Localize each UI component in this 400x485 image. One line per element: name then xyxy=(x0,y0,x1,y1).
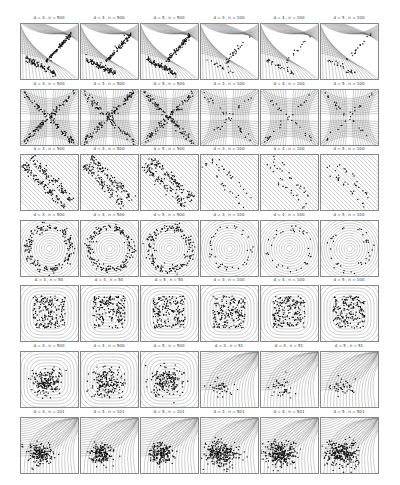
plot-row: d = 3 , n = 500d = 4 , n = 500d = 5 , n … xyxy=(20,80,380,146)
plot-cell: d = 3 , n = 50 xyxy=(20,276,80,342)
panel-title: d = 3 , n = 51 xyxy=(200,342,258,350)
panel-title: d = 3 , n = 500 xyxy=(20,80,78,88)
panel-title: d = 5 , n = 101 xyxy=(140,408,198,416)
contour-panel xyxy=(260,23,319,80)
panel-title: d = 4 , n = 50 xyxy=(80,276,138,284)
panel-title: d = 4 , n = 501 xyxy=(260,408,318,416)
plot-row: d = 3 , n = 500d = 4 , n = 500d = 5 , n … xyxy=(20,211,380,277)
panel-title: d = 4 , n = 100 xyxy=(260,276,318,284)
contour-panel xyxy=(320,285,379,342)
panel-title: d = 4 , n = 500 xyxy=(80,14,138,22)
plot-cell: d = 3 , n = 100 xyxy=(200,145,260,211)
plot-cell: d = 4 , n = 501 xyxy=(260,408,320,474)
contour-panel xyxy=(140,89,199,146)
panel-title: d = 4 , n = 500 xyxy=(80,342,138,350)
plot-cell: d = 3 , n = 500 xyxy=(20,211,80,277)
contour-panel xyxy=(80,351,139,408)
contour-panel xyxy=(140,351,199,408)
plot-cell: d = 3 , n = 500 xyxy=(20,145,80,211)
panel-title: d = 3 , n = 100 xyxy=(200,276,258,284)
plot-cell: d = 3 , n = 51 xyxy=(200,342,260,408)
panel-title: d = 5 , n = 500 xyxy=(140,342,198,350)
panel-title: d = 3 , n = 50 xyxy=(20,276,78,284)
plot-cell: d = 5 , n = 100 xyxy=(320,276,380,342)
contour-panel xyxy=(260,285,319,342)
contour-panel xyxy=(140,23,199,80)
contour-panel xyxy=(320,417,379,474)
plot-row: d = 3 , n = 101d = 4 , n = 101d = 5 , n … xyxy=(20,408,380,474)
panel-title: d = 5 , n = 500 xyxy=(140,211,198,219)
panel-title: d = 5 , n = 100 xyxy=(320,80,378,88)
contour-panel xyxy=(80,417,139,474)
plot-cell: d = 4 , n = 100 xyxy=(260,276,320,342)
contour-panel xyxy=(200,417,259,474)
plot-cell: d = 4 , n = 500 xyxy=(80,80,140,146)
plot-cell: d = 4 , n = 101 xyxy=(80,408,140,474)
contour-panel xyxy=(200,154,259,211)
plot-cell: d = 4 , n = 100 xyxy=(260,80,320,146)
panel-title: d = 4 , n = 500 xyxy=(80,211,138,219)
contour-panel xyxy=(20,417,79,474)
panel-title: d = 4 , n = 100 xyxy=(260,145,318,153)
contour-panel xyxy=(80,220,139,277)
panel-title: d = 3 , n = 501 xyxy=(200,408,258,416)
panel-title: d = 4 , n = 100 xyxy=(260,211,318,219)
plot-row: d = 3 , n = 500d = 4 , n = 500d = 5 , n … xyxy=(20,14,380,80)
panel-title: d = 3 , n = 500 xyxy=(20,145,78,153)
panel-title: d = 3 , n = 100 xyxy=(200,14,258,22)
contour-panel xyxy=(260,220,319,277)
plot-cell: d = 5 , n = 100 xyxy=(320,145,380,211)
contour-panel xyxy=(260,89,319,146)
panel-title: d = 5 , n = 100 xyxy=(320,211,378,219)
contour-panel xyxy=(80,154,139,211)
plot-cell: d = 4 , n = 50 xyxy=(80,276,140,342)
plot-cell: d = 3 , n = 101 xyxy=(20,408,80,474)
contour-panel xyxy=(200,89,259,146)
contour-panel xyxy=(260,351,319,408)
panel-title: d = 4 , n = 100 xyxy=(260,80,318,88)
panel-title: d = 5 , n = 500 xyxy=(140,80,198,88)
panel-title: d = 4 , n = 101 xyxy=(80,408,138,416)
plot-cell: d = 5 , n = 500 xyxy=(140,14,200,80)
plot-row: d = 3 , n = 500d = 4 , n = 500d = 5 , n … xyxy=(20,342,380,408)
contour-panel xyxy=(320,154,379,211)
panel-title: d = 3 , n = 101 xyxy=(20,408,78,416)
plot-cell: d = 5 , n = 50 xyxy=(140,276,200,342)
plot-cell: d = 5 , n = 101 xyxy=(140,408,200,474)
plot-cell: d = 5 , n = 100 xyxy=(320,14,380,80)
plot-cell: d = 5 , n = 51 xyxy=(320,342,380,408)
plot-cell: d = 4 , n = 500 xyxy=(80,211,140,277)
plot-cell: d = 3 , n = 500 xyxy=(20,14,80,80)
plot-cell: d = 5 , n = 500 xyxy=(140,145,200,211)
panel-title: d = 3 , n = 100 xyxy=(200,80,258,88)
contour-panel xyxy=(20,89,79,146)
contour-panel xyxy=(80,89,139,146)
panel-title: d = 3 , n = 100 xyxy=(200,211,258,219)
plot-cell: d = 5 , n = 100 xyxy=(320,80,380,146)
plot-cell: d = 5 , n = 500 xyxy=(140,80,200,146)
contour-panel xyxy=(320,351,379,408)
plot-cell: d = 4 , n = 100 xyxy=(260,14,320,80)
panel-title: d = 3 , n = 500 xyxy=(20,14,78,22)
contour-panel xyxy=(200,23,259,80)
panel-title: d = 5 , n = 100 xyxy=(320,145,378,153)
plot-cell: d = 4 , n = 100 xyxy=(260,211,320,277)
plot-cell: d = 5 , n = 100 xyxy=(320,211,380,277)
plot-cell: d = 3 , n = 500 xyxy=(20,80,80,146)
contour-plot-grid: d = 3 , n = 500d = 4 , n = 500d = 5 , n … xyxy=(20,14,380,473)
plot-cell: d = 4 , n = 500 xyxy=(80,145,140,211)
plot-cell: d = 3 , n = 500 xyxy=(20,342,80,408)
contour-panel xyxy=(140,154,199,211)
plot-cell: d = 4 , n = 51 xyxy=(260,342,320,408)
plot-cell: d = 3 , n = 100 xyxy=(200,276,260,342)
plot-cell: d = 4 , n = 100 xyxy=(260,145,320,211)
plot-cell: d = 5 , n = 500 xyxy=(140,342,200,408)
plot-row: d = 3 , n = 50d = 4 , n = 50d = 5 , n = … xyxy=(20,276,380,342)
panel-title: d = 5 , n = 501 xyxy=(320,408,378,416)
panel-title: d = 5 , n = 100 xyxy=(320,276,378,284)
panel-title: d = 5 , n = 500 xyxy=(140,14,198,22)
contour-panel xyxy=(140,417,199,474)
panel-title: d = 4 , n = 51 xyxy=(260,342,318,350)
plot-cell: d = 3 , n = 100 xyxy=(200,14,260,80)
contour-panel xyxy=(320,220,379,277)
